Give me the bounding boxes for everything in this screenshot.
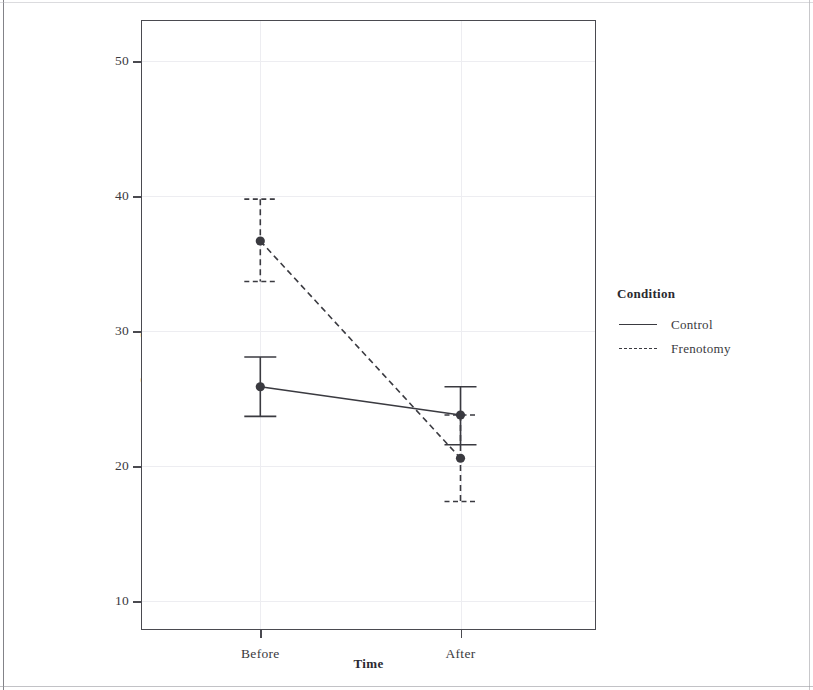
y-tick-50 <box>133 61 142 62</box>
page-border-top <box>0 2 813 3</box>
y-tick-40 <box>133 196 142 197</box>
legend-line-solid-icon <box>617 318 659 332</box>
series-line-frenotomy <box>260 241 460 458</box>
x-tick-after <box>461 629 462 638</box>
legend-item-control[interactable]: Control <box>617 313 797 337</box>
page-border-right <box>809 0 810 690</box>
series-layer <box>142 21 597 631</box>
legend: Condition Control Frenotomy <box>617 286 797 361</box>
series-line-control <box>260 387 460 415</box>
legend-title: Condition <box>617 286 797 302</box>
figure-page: Survey Score 1020304050 BeforeAfter Time… <box>0 0 813 690</box>
y-tick-20 <box>133 466 142 467</box>
page-border-left <box>3 0 4 690</box>
y-tick-30 <box>133 331 142 332</box>
gridline-y-20 <box>142 466 595 467</box>
gridline-y-40 <box>142 196 595 197</box>
gridline-x-after <box>461 21 462 629</box>
gridline-y-30 <box>142 331 595 332</box>
x-axis-title: Time <box>141 656 596 672</box>
series-control <box>244 357 476 445</box>
y-tick-label-30: 30 <box>115 323 129 339</box>
series-frenotomy <box>244 199 476 501</box>
y-tick-label-40: 40 <box>115 188 129 204</box>
y-tick-10 <box>133 601 142 602</box>
gridline-y-50 <box>142 61 595 62</box>
legend-label-frenotomy: Frenotomy <box>659 341 731 357</box>
gridline-x-before <box>260 21 261 629</box>
x-tick-before <box>260 629 261 638</box>
gridline-y-10 <box>142 601 595 602</box>
page-border-bottom <box>0 686 813 687</box>
y-tick-label-10: 10 <box>115 593 129 609</box>
y-tick-label-20: 20 <box>115 458 129 474</box>
legend-label-control: Control <box>659 317 713 333</box>
plot-panel: 1020304050 BeforeAfter <box>141 20 596 630</box>
legend-item-frenotomy[interactable]: Frenotomy <box>617 337 797 361</box>
y-tick-label-50: 50 <box>115 53 129 69</box>
legend-line-dashed-icon <box>617 342 659 356</box>
